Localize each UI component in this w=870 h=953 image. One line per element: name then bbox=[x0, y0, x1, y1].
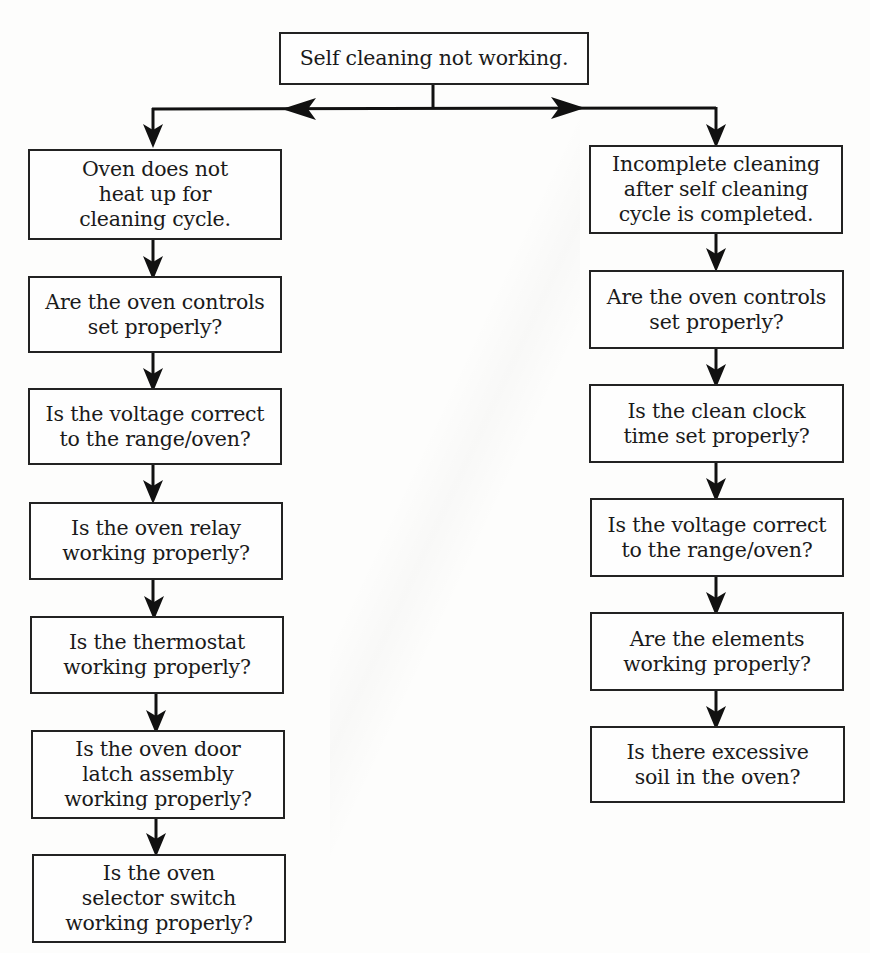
right-branch-title-node: Incomplete cleaning after self cleaning … bbox=[589, 145, 843, 234]
left-step-label-2: Is the voltage correct to the range/oven… bbox=[46, 402, 265, 452]
root-label: Self cleaning not working. bbox=[300, 46, 568, 71]
left-branch-title-label: Oven does not heat up for cleaning cycle… bbox=[79, 157, 231, 232]
right-step-label-2: Is the clean clock time set properly? bbox=[623, 399, 809, 449]
right-step-label-5: Is there excessive soil in the oven? bbox=[626, 740, 808, 790]
right-step-node-1: Are the oven controls set properly? bbox=[589, 270, 844, 349]
right-step-node-2: Is the clean clock time set properly? bbox=[589, 384, 844, 463]
left-step-label-5: Is the oven door latch assembly working … bbox=[64, 737, 252, 812]
left-step-label-4: Is the thermostat working properly? bbox=[63, 630, 251, 680]
left-step-node-1: Are the oven controls set properly? bbox=[28, 276, 282, 353]
right-step-node-4: Are the elements working properly? bbox=[590, 612, 844, 691]
right-step-label-4: Are the elements working properly? bbox=[623, 627, 811, 677]
right-step-label-1: Are the oven controls set properly? bbox=[607, 285, 826, 335]
left-step-node-3: Is the oven relay working properly? bbox=[29, 502, 283, 580]
flowchart-canvas: Self cleaning not working. Oven does not… bbox=[0, 0, 870, 953]
root-node: Self cleaning not working. bbox=[279, 32, 589, 85]
left-step-node-4: Is the thermostat working properly? bbox=[30, 616, 284, 694]
left-step-node-5: Is the oven door latch assembly working … bbox=[31, 730, 285, 819]
right-step-node-3: Is the voltage correct to the range/oven… bbox=[590, 498, 844, 577]
right-step-label-3: Is the voltage correct to the range/oven… bbox=[608, 513, 827, 563]
left-step-label-3: Is the oven relay working properly? bbox=[62, 516, 250, 566]
right-step-node-5: Is there excessive soil in the oven? bbox=[590, 726, 845, 803]
left-step-label-1: Are the oven controls set properly? bbox=[45, 290, 264, 340]
left-step-label-6: Is the oven selector switch working prop… bbox=[65, 861, 253, 936]
left-branch-title-node: Oven does not heat up for cleaning cycle… bbox=[28, 149, 282, 240]
right-branch-title-label: Incomplete cleaning after self cleaning … bbox=[612, 152, 820, 227]
left-step-node-2: Is the voltage correct to the range/oven… bbox=[28, 388, 282, 465]
left-step-node-6: Is the oven selector switch working prop… bbox=[32, 854, 286, 943]
